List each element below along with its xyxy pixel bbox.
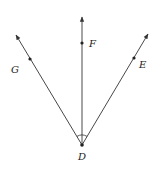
label-e: E <box>138 59 147 70</box>
label-f: F <box>88 38 97 49</box>
ray-dg <box>16 35 82 145</box>
point-g <box>28 57 31 60</box>
point-e <box>132 56 135 59</box>
label-g: G <box>11 64 19 75</box>
point-d <box>80 143 84 147</box>
label-d: D <box>77 151 86 162</box>
point-f <box>80 41 83 44</box>
geometry-diagram: D G F E <box>0 0 157 179</box>
ray-de <box>82 34 148 145</box>
